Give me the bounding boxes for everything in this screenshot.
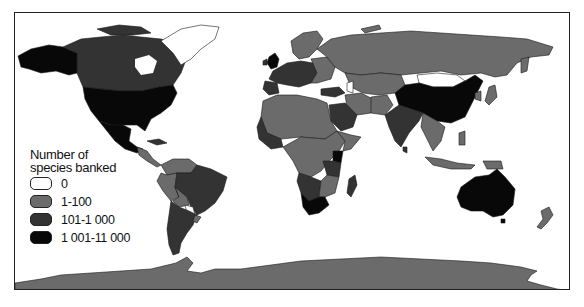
map-legend: Number of species banked 0 1-100 101-1 0…: [30, 148, 150, 246]
region-turkey: [321, 87, 345, 97]
region-north-africa: [261, 95, 337, 139]
region-angola-namibia: [297, 173, 321, 201]
region-arctic-islands: [97, 25, 151, 35]
legend-item-0: 0: [30, 175, 150, 192]
region-indonesia: [425, 157, 475, 169]
legend-label-1001-11000: 1 001-11 000: [61, 231, 130, 245]
region-usa: [83, 85, 177, 131]
region-iberia: [263, 81, 279, 95]
region-madagascar: [347, 175, 357, 197]
map-frame: Number of species banked 0 1-100 101-1 0…: [14, 12, 570, 290]
region-russia: [317, 31, 553, 77]
legend-title: Number of species banked: [30, 148, 150, 174]
region-kazakhstan: [345, 73, 405, 95]
region-india: [385, 105, 423, 147]
region-ireland: [263, 59, 267, 65]
region-korea: [475, 91, 481, 101]
legend-item-101-1000: 101-1 000: [30, 211, 150, 228]
region-philippines: [459, 131, 465, 145]
region-scandinavia: [291, 31, 323, 59]
legend-title-line2: species banked: [30, 161, 150, 174]
region-tanzania: [323, 161, 341, 177]
region-sri-lanka: [403, 147, 407, 153]
legend-item-1-100: 1-100: [30, 193, 150, 210]
legend-label-0: 0: [61, 177, 68, 191]
legend-swatch-101-1000: [30, 213, 52, 226]
region-cuba: [147, 139, 167, 145]
legend-swatch-1-100: [30, 195, 52, 208]
legend-item-1001-11000: 1 001-11 000: [30, 229, 150, 246]
region-novaya-zemlya: [361, 25, 381, 33]
region-mozambique: [319, 175, 339, 197]
region-caspian: [347, 81, 353, 93]
region-new-zealand: [537, 207, 553, 229]
legend-swatch-1001-11000: [30, 231, 52, 244]
region-png: [483, 161, 503, 169]
region-japan: [485, 85, 497, 105]
legend-label-101-1000: 101-1 000: [61, 213, 115, 227]
region-australia: [457, 169, 515, 217]
region-tasmania: [501, 219, 505, 223]
legend-label-1-100: 1-100: [61, 195, 91, 209]
region-uk: [267, 53, 279, 69]
region-kamchatka: [521, 57, 529, 73]
region-antarctica: [15, 257, 570, 290]
legend-swatch-0: [30, 177, 52, 190]
